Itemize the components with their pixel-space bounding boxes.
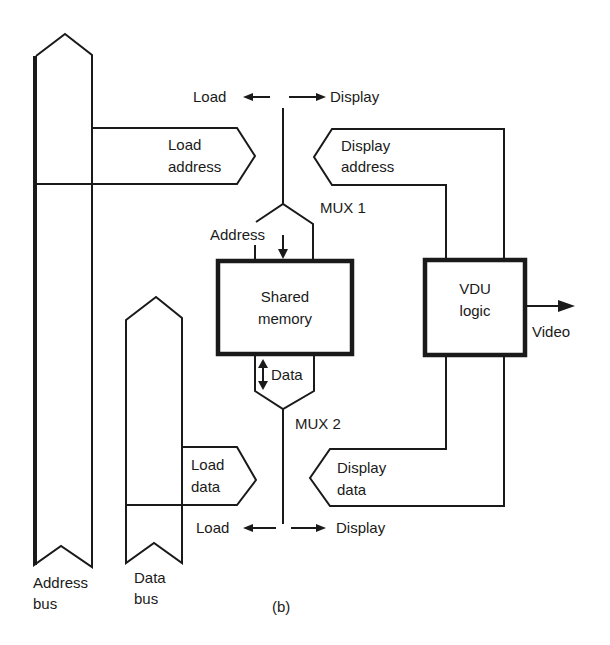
load-data-label-line1: Load	[191, 456, 224, 473]
mux2-select-display: Display	[336, 519, 386, 536]
shared-memory-block: Shared memory	[218, 261, 352, 354]
data-bus	[126, 297, 182, 563]
figure-caption: (b)	[272, 598, 290, 615]
load-data-label-line2: data	[191, 478, 221, 495]
video-label: Video	[532, 323, 570, 340]
video-output: Video	[527, 300, 575, 340]
display-address-line1: Display	[341, 137, 391, 154]
display-data-line2: data	[337, 481, 367, 498]
data-bus-label-line1: Data	[134, 569, 166, 586]
vdu-logic-block: VDU logic	[425, 260, 525, 355]
vdu-shared-memory-diagram: Load address Load data Address MUX 1 Loa…	[0, 0, 610, 645]
load-address-label-line1: Load	[168, 136, 201, 153]
display-data-line1: Display	[337, 459, 387, 476]
mux1-select-display: Display	[330, 88, 380, 105]
address-bus-label-line2: bus	[33, 595, 57, 612]
display-address-signal: Display address	[314, 129, 504, 260]
mux2-select-load: Load	[196, 519, 229, 536]
load-data-signal: Load data	[126, 447, 256, 505]
mux2-label: MUX 2	[295, 415, 341, 432]
shared-memory-line1: Shared	[261, 288, 309, 305]
mux2-output-label: Data	[271, 366, 303, 383]
mux1-select-load: Load	[193, 88, 226, 105]
display-address-line2: address	[341, 158, 394, 175]
address-bus-label-line1: Address	[33, 574, 88, 591]
address-bus	[34, 34, 92, 567]
mux1-output-label: Address	[210, 226, 265, 243]
vdu-logic-line1: VDU	[459, 280, 491, 297]
shared-memory-line2: memory	[258, 310, 313, 327]
vdu-logic-line2: logic	[460, 302, 491, 319]
load-address-label-line2: address	[168, 158, 221, 175]
mux1-label: MUX 1	[320, 199, 366, 216]
data-bus-label-line2: bus	[134, 590, 158, 607]
load-address-signal: Load address	[36, 128, 255, 184]
